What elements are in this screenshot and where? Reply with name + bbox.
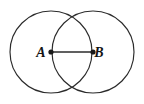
point-label-a: A xyxy=(35,45,45,60)
center-point-a-dot xyxy=(48,49,53,54)
geometry-figure: A B xyxy=(0,0,144,104)
two-circles-diagram: A B xyxy=(0,0,144,104)
point-label-b: B xyxy=(93,45,103,60)
